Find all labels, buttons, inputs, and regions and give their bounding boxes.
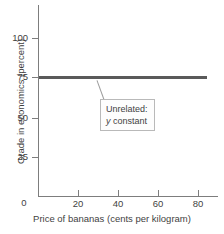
x-axis-title: Price of bananas (cents per kilogram) <box>0 213 224 224</box>
x-tick-label-20: 20 <box>63 198 93 209</box>
x-tick-label-80: 80 <box>183 198 213 209</box>
x-tick-20 <box>78 190 79 196</box>
x-axis-spine <box>38 196 218 197</box>
x-tick-label-60: 60 <box>143 198 173 209</box>
series-line-grade <box>39 76 207 79</box>
x-tick-40 <box>118 190 119 196</box>
annotation-line-2-rest: constant <box>111 116 148 126</box>
y-axis-title: Grade in economics (percent) <box>15 14 26 190</box>
y-tick-100 <box>32 38 38 39</box>
x-tick-label-40: 40 <box>103 198 133 209</box>
x-tick-label-0: 0 <box>9 197 39 208</box>
x-tick-60 <box>158 190 159 196</box>
annotation-line-1: Unrelated: <box>106 103 149 115</box>
annotation-line-2: y constant <box>106 115 149 127</box>
y-tick-25 <box>32 157 38 158</box>
x-tick-80 <box>198 190 199 196</box>
annotation-box: Unrelated: y constant <box>100 99 155 131</box>
y-axis-spine <box>38 5 39 197</box>
y-tick-75 <box>32 77 38 78</box>
y-tick-50 <box>32 118 38 119</box>
chart-container: 100 75 50 25 0 20 40 60 80 Unrelated: y … <box>0 0 224 234</box>
